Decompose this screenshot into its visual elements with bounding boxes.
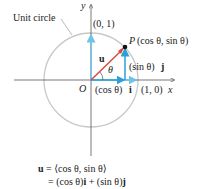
vector-u [91, 49, 123, 80]
equation-sin-term: + (sin θ) [86, 176, 122, 188]
equation-line-1: u = ⟨cos θ, sin θ⟩ [38, 163, 107, 174]
y-axis-label: y [80, 0, 86, 11]
angle-arc [100, 72, 103, 80]
point-p-label: P [128, 35, 135, 46]
unit-circle-diagram: Unit circle y x O (0, 1) (1, 0) P (cos θ… [0, 0, 207, 189]
angle-theta-label: θ [108, 64, 113, 75]
unit-circle-label: Unit circle [13, 12, 56, 23]
equation-line-1-rhs: = ⟨cos θ, sin θ⟩ [44, 163, 107, 174]
cos-component-label: (cos θ) [95, 84, 122, 96]
unit-circle-leader [61, 19, 72, 35]
cos-unit-i: i [129, 84, 132, 95]
sin-component-label: (sin θ) [129, 61, 155, 73]
point-1-0-label: (1, 0) [141, 84, 163, 96]
vector-u-label: u [99, 53, 105, 64]
point-p [123, 45, 128, 50]
equation-cos-term: = (cos θ) [48, 176, 83, 188]
x-axis-label: x [167, 84, 173, 95]
origin-label: O [79, 83, 86, 94]
point-p-coords: (cos θ, sin θ) [137, 35, 188, 47]
sin-unit-j: j [160, 61, 164, 72]
point-0-1-label: (0, 1) [93, 18, 115, 30]
equation-line-2: = (cos θ)i + (sin θ)j [48, 176, 126, 188]
equation-j: j [121, 176, 125, 187]
